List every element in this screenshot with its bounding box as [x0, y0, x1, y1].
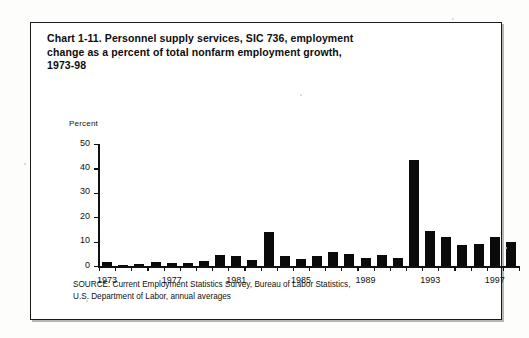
x-axis-tick	[277, 266, 278, 271]
bar	[312, 256, 322, 266]
x-axis-tick-label: 1997	[485, 275, 505, 285]
bar	[457, 245, 467, 266]
x-axis-tick	[519, 266, 520, 271]
x-axis-tick	[487, 266, 488, 271]
bar	[264, 232, 274, 266]
x-axis-tick	[341, 266, 342, 271]
bar	[490, 237, 500, 266]
bar	[296, 259, 306, 266]
x-axis-tick	[454, 266, 455, 271]
source-note: SOURCE: Current Employment Statistics Su…	[73, 279, 473, 303]
x-axis-tick	[325, 266, 326, 271]
scan-speck	[300, 94, 302, 96]
y-axis-tick-label: 10	[80, 235, 90, 245]
bar	[409, 160, 419, 266]
x-axis-tick	[196, 266, 197, 271]
bar	[361, 258, 371, 266]
x-axis-tick	[503, 266, 504, 271]
source-note-line-2: U.S. Department of Labor, annual average…	[73, 292, 231, 301]
chart-title-line-2: change as a percent of total nonfarm emp…	[47, 46, 342, 58]
bar	[102, 262, 112, 266]
y-axis-tick-label: 40	[80, 162, 90, 172]
bar	[393, 258, 403, 266]
bar	[425, 231, 435, 266]
bar	[134, 264, 144, 266]
plot-area: 01020304050 1973197719811985198919931997	[99, 144, 519, 266]
bar	[280, 256, 290, 266]
bar	[377, 255, 387, 266]
bar	[199, 261, 209, 266]
bar	[506, 242, 516, 266]
x-axis-tick	[261, 266, 262, 271]
x-axis-tick	[309, 266, 310, 271]
bar	[231, 256, 241, 266]
y-axis-tick-label: 0	[85, 260, 90, 270]
x-axis-tick	[374, 266, 375, 271]
x-axis-tick	[180, 266, 181, 271]
x-axis-tick	[422, 266, 423, 271]
x-axis-tick	[244, 266, 245, 271]
scan-speck	[452, 18, 454, 20]
y-axis-tick-label: 50	[80, 138, 90, 148]
y-axis-unit-label: Percent	[69, 119, 98, 128]
source-note-line-1: SOURCE: Current Employment Statistics Su…	[73, 280, 350, 289]
x-axis-tick	[115, 266, 116, 271]
scan-speck	[118, 57, 120, 59]
chart-title-line-3: 1973-98	[47, 59, 86, 71]
x-axis-tick	[212, 266, 213, 271]
x-axis-tick	[390, 266, 391, 271]
scan-speck	[505, 247, 507, 249]
y-axis-tick-label: 30	[80, 186, 90, 196]
y-axis-tick-label: 20	[80, 211, 90, 221]
bar-series	[99, 144, 519, 266]
x-axis-tick	[293, 266, 294, 271]
x-axis-tick	[147, 266, 148, 271]
bar	[118, 265, 128, 266]
bar	[441, 237, 451, 266]
x-axis-tick	[164, 266, 165, 271]
chart-title-line-1: Chart 1-11. Personnel supply services, S…	[47, 32, 353, 44]
bar	[183, 263, 193, 266]
bar	[328, 252, 338, 266]
x-axis-tick	[406, 266, 407, 271]
x-axis-tick	[438, 266, 439, 271]
x-axis-tick	[99, 266, 100, 271]
bar	[151, 262, 161, 266]
bar	[247, 260, 257, 266]
bar	[344, 254, 354, 266]
scan-speck	[86, 300, 88, 302]
bar	[215, 255, 225, 266]
scan-speck	[24, 163, 26, 165]
x-axis-tick	[471, 266, 472, 271]
chart-title: Chart 1-11. Personnel supply services, S…	[47, 32, 467, 73]
bar	[167, 263, 177, 266]
chart-figure-box: Chart 1-11. Personnel supply services, S…	[30, 22, 502, 320]
x-axis-tick	[357, 266, 358, 271]
bar	[474, 244, 484, 266]
x-axis-tick	[228, 266, 229, 271]
x-axis-tick	[131, 266, 132, 271]
